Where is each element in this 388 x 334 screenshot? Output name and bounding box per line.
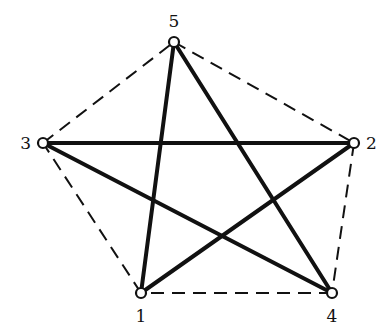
node-3-label: 3 (20, 133, 31, 153)
k5-graph-diagram: 12345 (0, 0, 388, 334)
node-5-label: 5 (169, 11, 180, 31)
node-4-label: 4 (327, 306, 338, 326)
dashed-edge-2-4 (332, 143, 354, 293)
dashed-edge-3-5 (43, 42, 174, 143)
node-2-circle-icon (349, 138, 359, 148)
node-1-label: 1 (136, 306, 147, 326)
dashed-edge-5-2 (174, 42, 354, 143)
solid-edge-1-5 (141, 42, 174, 293)
solid-edge-2-1 (141, 143, 354, 293)
node-3-circle-icon (38, 138, 48, 148)
node-4-circle-icon (327, 288, 337, 298)
node-5-circle-icon (169, 37, 179, 47)
solid-edge-4-3 (43, 143, 332, 293)
node-2-label: 2 (366, 133, 377, 153)
node-1-circle-icon (136, 288, 146, 298)
pentagram-solid-edges (43, 42, 354, 293)
dashed-edge-1-3 (43, 143, 141, 293)
